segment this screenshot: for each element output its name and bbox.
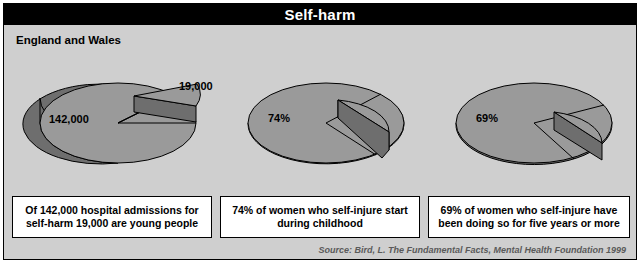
caption-box-3: 69% of women who self-injure have been d… — [428, 196, 630, 238]
subtitle: England and Wales — [16, 34, 121, 46]
page-title: Self-harm — [4, 4, 636, 25]
pie-3-label-69: 69% — [476, 112, 498, 124]
caption-box-1: Of 142,000 hospital admissions for self-… — [12, 196, 212, 238]
pie-1-label-142000: 142,000 — [49, 113, 89, 125]
caption-box-2: 74% of women who self-injure start durin… — [220, 196, 420, 238]
pie-chart-five-years-or-more — [434, 60, 634, 190]
source-note: Source: Bird, L. The Fundamental Facts, … — [318, 245, 626, 255]
pie-1-label-19000: 19,000 — [179, 80, 213, 92]
caption-text-2: 74% of women who self-injure start durin… — [221, 204, 419, 230]
pie-2-label-74: 74% — [268, 112, 290, 124]
title-bar: Self-harm — [4, 4, 636, 25]
poster-frame: Self-harm England and Wales 142,000 19,0… — [3, 3, 637, 260]
captions-row: Of 142,000 hospital admissions for self-… — [12, 196, 630, 240]
pie-chart-onset-in-childhood — [226, 60, 426, 190]
caption-text-3: 69% of women who self-injure have been d… — [429, 204, 629, 230]
caption-text-1: Of 142,000 hospital admissions for self-… — [13, 204, 211, 230]
charts-container: 142,000 19,000 74% — [4, 50, 636, 195]
